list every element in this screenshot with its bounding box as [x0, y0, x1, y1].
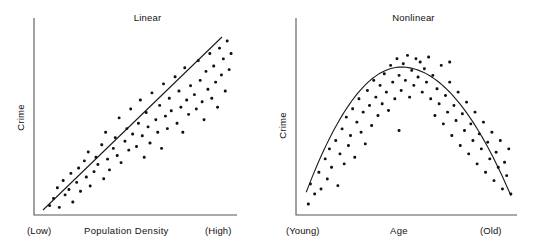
- scatter-point: [197, 59, 200, 62]
- scatter-point: [108, 168, 111, 171]
- scatter-point: [137, 122, 140, 125]
- x-tick-label-young-nonlinear: (Young): [286, 225, 320, 236]
- scatter-point: [391, 81, 394, 84]
- scatter-point: [56, 186, 59, 189]
- scatter-point: [374, 96, 377, 99]
- scatter-point: [168, 97, 171, 100]
- scatter-point: [120, 161, 123, 164]
- scatter-point: [488, 157, 491, 160]
- scatter-point: [206, 88, 209, 91]
- scatter-point: [230, 52, 233, 55]
- scatter-point: [162, 82, 165, 85]
- scatter-point: [358, 97, 361, 100]
- scatter-point: [64, 193, 67, 196]
- scatter-point: [320, 188, 323, 191]
- scatter-point: [421, 91, 424, 94]
- scatter-point: [446, 111, 449, 114]
- linear-fit-line: [43, 37, 222, 210]
- axis-lines-nonlinear: [296, 18, 517, 215]
- scatter-point: [79, 190, 82, 193]
- scatter-point: [93, 170, 96, 173]
- scatter-point: [226, 40, 229, 43]
- scatter-point: [116, 154, 119, 157]
- scatter-point: [62, 179, 65, 182]
- scatter-point: [484, 171, 487, 174]
- scatter-point: [370, 124, 373, 127]
- scatter-point: [139, 99, 142, 102]
- scatter-point: [440, 64, 443, 67]
- scatter-point: [127, 149, 130, 152]
- panel-linear: Linear Crime (Low) Population Density (H…: [0, 0, 273, 248]
- scatter-point: [334, 139, 337, 142]
- scatter-dots-linear: [48, 40, 232, 209]
- axes-nonlinear: [296, 18, 517, 215]
- scatter-point: [75, 181, 78, 184]
- scatter-point: [431, 74, 434, 77]
- scatter-point: [104, 131, 107, 134]
- scatter-point: [362, 111, 365, 114]
- scatter-point: [474, 111, 477, 114]
- scatter-point: [179, 106, 182, 109]
- y-axis-label-linear: Crime: [15, 94, 26, 142]
- scatter-point: [402, 62, 405, 65]
- scatter-point: [495, 151, 498, 154]
- scatter-point: [195, 108, 198, 111]
- scatter-point: [503, 161, 506, 164]
- scatter-point: [381, 102, 384, 105]
- scatter-point: [387, 109, 390, 112]
- scatter-point: [355, 121, 358, 124]
- scatter-point: [106, 158, 109, 161]
- scatter-point: [205, 70, 208, 73]
- scatter-point: [497, 166, 500, 169]
- scatter-point: [463, 129, 466, 132]
- scatter-point: [499, 139, 502, 142]
- scatter-point: [393, 97, 396, 100]
- scatter-point: [83, 159, 86, 162]
- scatter-point: [368, 104, 371, 107]
- scatter-point: [457, 91, 460, 94]
- y-axis-label-nonlinear: Crime: [277, 102, 288, 150]
- scatter-point: [476, 162, 479, 165]
- scatter-point: [48, 204, 51, 207]
- scatter-point: [351, 107, 354, 110]
- scatter-point: [58, 206, 61, 209]
- scatter-point: [339, 152, 342, 155]
- scatter-point: [307, 203, 310, 206]
- scatter-point: [465, 101, 468, 104]
- nonlinear-fit-curve: [306, 67, 511, 196]
- scatter-point: [501, 188, 504, 191]
- scatter-point: [149, 142, 152, 145]
- scatter-point: [201, 100, 204, 103]
- fit-line-group-linear: [43, 37, 222, 210]
- scatter-point: [189, 84, 192, 87]
- scatter-point: [210, 97, 213, 100]
- scatter-point: [360, 131, 363, 134]
- scatter-point: [96, 163, 99, 166]
- scatter-point: [429, 97, 432, 100]
- scatter-point: [364, 142, 367, 145]
- scatter-point: [313, 193, 316, 196]
- scatter-point: [436, 87, 439, 90]
- scatter-point: [383, 72, 386, 75]
- scatter-point: [433, 114, 436, 117]
- scatter-point: [125, 127, 128, 130]
- scatter-point: [220, 74, 223, 77]
- x-tick-label-old-nonlinear: (Old): [480, 225, 502, 236]
- scatter-point: [507, 147, 510, 150]
- figure-two-panel-scatterplots: Linear Crime (Low) Population Density (H…: [0, 0, 546, 248]
- scatter-point: [372, 79, 375, 82]
- x-tick-label-low-linear: (Low): [27, 225, 51, 236]
- scatter-point: [326, 177, 329, 180]
- scatter-point: [199, 79, 202, 82]
- scatter-point: [406, 54, 409, 57]
- scatter-point: [123, 140, 126, 143]
- scatter-point: [377, 114, 380, 117]
- scatter-point: [166, 127, 169, 130]
- scatter-point: [183, 66, 186, 69]
- scatter-point: [438, 102, 441, 105]
- scatter-point: [176, 122, 179, 125]
- scatter-point: [178, 90, 181, 93]
- fit-curve-group-nonlinear: [306, 67, 511, 196]
- scatter-point: [330, 166, 333, 169]
- scatter-point: [379, 84, 382, 87]
